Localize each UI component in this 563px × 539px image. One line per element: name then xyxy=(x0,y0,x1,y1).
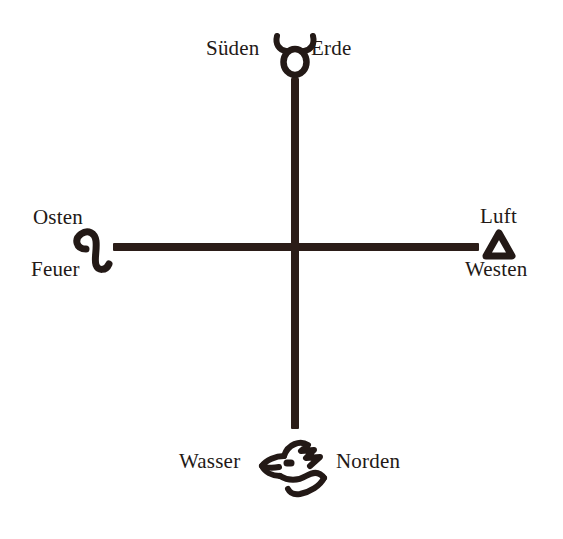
element-label-luft: Luft xyxy=(480,206,517,227)
direction-label-norden: Norden xyxy=(336,451,400,472)
horizontal-axis xyxy=(113,243,479,251)
direction-label-sueden: Süden xyxy=(206,38,260,59)
element-label-erde: Erde xyxy=(311,38,351,59)
vertical-axis xyxy=(291,78,299,429)
direction-label-westen: Westen xyxy=(465,259,528,280)
element-label-wasser: Wasser xyxy=(179,451,240,472)
eagle-head-symbol xyxy=(254,434,332,500)
element-label-feuer: Feuer xyxy=(31,259,80,280)
element-cross-diagram: Süden Erde Osten Feuer Luft We xyxy=(0,0,563,539)
